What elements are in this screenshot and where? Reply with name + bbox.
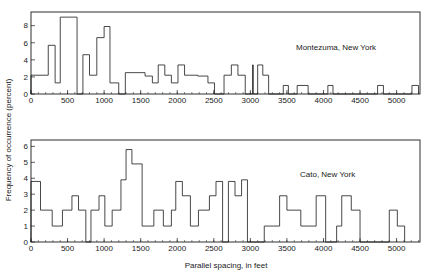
figure-canvas: Frequency of occurrence (percent) 02468 …	[0, 0, 435, 280]
plot-frame-bottom	[31, 140, 420, 242]
svg-text:3000: 3000	[241, 96, 259, 105]
svg-text:4000: 4000	[315, 96, 333, 105]
svg-text:4500: 4500	[351, 244, 369, 253]
svg-text:2500: 2500	[205, 244, 223, 253]
x-tick-labels-bottom: 0500100015002000250030003500400045005000	[29, 244, 406, 253]
svg-text:4: 4	[24, 174, 29, 183]
svg-text:1: 1	[24, 222, 29, 231]
svg-text:5: 5	[24, 158, 29, 167]
svg-text:6: 6	[24, 39, 29, 48]
svg-text:500: 500	[61, 244, 75, 253]
histogram-series-montezuma	[31, 17, 419, 94]
svg-text:0: 0	[29, 244, 34, 253]
svg-text:5000: 5000	[388, 96, 406, 105]
svg-text:2: 2	[24, 206, 29, 215]
svg-text:0: 0	[29, 96, 34, 105]
svg-text:2: 2	[24, 73, 29, 82]
svg-text:4500: 4500	[351, 96, 369, 105]
svg-text:5000: 5000	[388, 244, 406, 253]
plot-frame-top	[31, 12, 420, 94]
svg-text:500: 500	[61, 96, 75, 105]
svg-text:3500: 3500	[278, 96, 296, 105]
x-tick-labels-top: 0500100015002000250030003500400045005000	[29, 96, 406, 105]
svg-text:1500: 1500	[132, 244, 150, 253]
svg-text:8: 8	[24, 21, 29, 30]
svg-text:2500: 2500	[205, 96, 223, 105]
x-axis-label: Parallel spacing, in feet	[185, 261, 268, 270]
panel-annotation-cato: Cato, New York	[300, 170, 356, 179]
chart-panel-montezuma: 02468 0500100015002000250030003500400045…	[24, 12, 420, 105]
histogram-series-cato	[31, 150, 405, 242]
svg-text:3000: 3000	[241, 244, 259, 253]
svg-text:4: 4	[24, 56, 29, 65]
svg-text:2000: 2000	[168, 244, 186, 253]
svg-text:1000: 1000	[95, 244, 113, 253]
svg-text:1000: 1000	[95, 96, 113, 105]
panel-annotation-montezuma: Montezuma, New York	[296, 43, 377, 52]
y-axis-label: Frequency of occurrence (percent)	[4, 78, 13, 201]
svg-text:4000: 4000	[315, 244, 333, 253]
chart-panel-cato: 0123456 05001000150020002500300035004000…	[24, 140, 420, 253]
svg-text:3500: 3500	[278, 244, 296, 253]
svg-text:2000: 2000	[168, 96, 186, 105]
svg-text:3: 3	[24, 190, 29, 199]
y-tick-labels-top: 02468	[24, 21, 29, 98]
svg-text:6: 6	[24, 142, 29, 151]
y-tick-labels-bottom: 0123456	[24, 142, 29, 247]
svg-text:1500: 1500	[132, 96, 150, 105]
